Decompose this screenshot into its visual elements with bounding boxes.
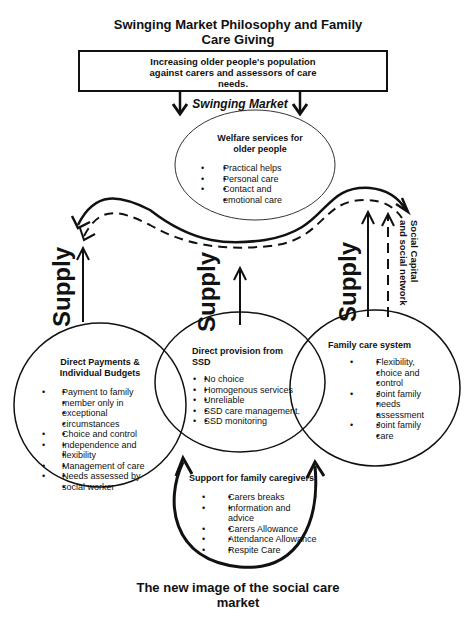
list-item: •Independence and [40,440,160,451]
social-capital-line-2: and social network [398,220,409,306]
list-item: •Joint family [328,389,438,400]
list-item: •Homogenous services [192,385,302,396]
welfare-list: •Practical helps •Personal care •Contact… [195,163,325,205]
list-item: •Personal care [195,174,325,185]
family-care-content: Family care system •Flexibility, choice … [328,340,438,441]
welfare-title-1: Welfare services for [195,133,325,144]
list-item: •Carers Allowance [189,524,319,535]
list-item-cont: control [328,378,438,389]
caption-line-1: The new image of the social care [70,580,406,595]
list-item: •Unreliable [192,395,302,406]
support-title: Support for family caregivers [189,473,319,484]
supply-label-middle: Supply [193,252,221,332]
social-capital-label: Social Capital and social network [398,220,420,306]
family-care-title: Family care system [328,340,438,351]
family-care-list: •Flexibility, choice and control •Joint … [328,357,438,441]
swing-curve-dashed [84,200,402,248]
box-line-2: against carers and assessors of care [80,67,386,78]
box-line-1: Increasing older people's population [80,56,386,67]
welfare-title: Welfare services for older people [195,133,325,155]
list-item: •Needs assessed by [40,471,160,482]
list-item: •Practical helps [195,163,325,174]
list-item-cont: needs [328,399,438,410]
list-item: •Attendance Allowance [189,534,319,545]
list-item: •Contact and [195,184,325,195]
support-content: Support for family caregivers •Carers br… [189,473,319,555]
direct-payments-list: •Payment to family member only in except… [40,387,160,492]
box-line-3: needs. [80,78,386,89]
dp-title-1: Direct Payments & [40,357,160,368]
social-capital-line-1: Social Capital [409,220,420,306]
welfare-content: Welfare services for older people •Pract… [195,133,325,205]
swinging-market-label: Swinging Market [160,97,320,111]
list-item: •Carers breaks [189,492,319,503]
list-item-cont: assessment [328,410,438,421]
dp-title-2: Individual Budgets [40,368,160,379]
list-item: •SSD care management. [192,406,302,417]
list-item-cont: member only in [40,398,160,409]
list-item-cont: choice and [328,368,438,379]
list-item: •Payment to family [40,387,160,398]
list-item: •No choice [192,374,302,385]
supply-label-left: Supply [48,247,76,327]
welfare-title-2: older people [195,144,325,155]
list-item-cont: social worker [40,482,160,493]
caption-line-2: market [70,595,406,610]
direct-payments-title: Direct Payments & Individual Budgets [40,357,160,379]
support-list: •Carers breaks •Information and advice •… [189,492,319,555]
title-line-2: Care Giving [60,32,416,47]
list-item-cont: circumstances [40,419,160,430]
population-box: Increasing older people's population aga… [78,50,388,92]
bottom-caption: The new image of the social care market [70,580,406,610]
title-line-1: Swinging Market Philosophy and Family [60,17,416,32]
diagram-title: Swinging Market Philosophy and Family Ca… [60,17,416,47]
list-item: •Management of care [40,461,160,472]
supply-label-right: Supply [334,242,362,322]
list-item: emotional care [195,195,325,206]
list-item: •Information and advice [189,503,319,524]
list-item: •Respite Care [189,545,319,556]
direct-provision-title: Direct provision from SSD [192,346,302,368]
direct-payments-content: Direct Payments & Individual Budgets •Pa… [40,357,160,492]
list-item: •SSD monitoring [192,416,302,427]
list-item-cont: flexibility [40,450,160,461]
direct-provision-list: •No choice •Homogenous services •Unrelia… [192,374,302,427]
list-item: •Joint family [328,420,438,431]
list-item-cont: exceptional [40,408,160,419]
list-item: •Flexibility, [328,357,438,368]
list-item-cont: care [328,431,438,442]
direct-provision-content: Direct provision from SSD •No choice •Ho… [192,346,302,427]
list-item: •Choice and control [40,429,160,440]
